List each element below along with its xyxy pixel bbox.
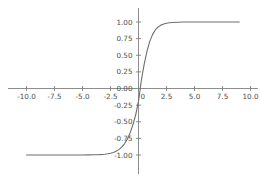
x-tick-label: 0	[141, 92, 146, 101]
x-tick-label: -7.5	[47, 92, 61, 101]
x-tick-label: 2.5	[161, 92, 172, 101]
y-axis: 1.000.750.500.250.00-0.25-0.50-0.75-1.00	[114, 8, 141, 174]
y-tick-label: 0.25	[116, 67, 132, 76]
chart-figure: -10.0-7.5-5.0-2.502.55.07.510.0 1.000.75…	[0, 0, 260, 176]
x-tick-label: -2.5	[103, 92, 117, 101]
y-tick-label: 1.00	[116, 18, 132, 27]
x-axis: -10.0-7.5-5.0-2.502.55.07.510.0	[8, 86, 259, 101]
y-tick-label: 0.00	[116, 84, 132, 93]
y-tick-label: 0.75	[116, 34, 132, 43]
x-tick-label: 10.0	[242, 92, 258, 101]
plot-canvas: -10.0-7.5-5.0-2.502.55.07.510.0 1.000.75…	[0, 0, 260, 176]
y-tick-label: -0.50	[114, 117, 133, 126]
x-tick-label: 5.0	[189, 92, 201, 101]
x-tick-label: -10.0	[17, 92, 36, 101]
y-tick-label: -0.75	[114, 134, 133, 143]
y-tick-label: 0.50	[116, 51, 132, 60]
y-tick-label: -0.25	[114, 101, 133, 110]
x-tick-label: 7.5	[217, 92, 228, 101]
x-tick-label: -5.0	[75, 92, 89, 101]
y-axis-tick-labels: 1.000.750.500.250.00-0.25-0.50-0.75-1.00	[114, 18, 133, 160]
y-tick-label: -1.00	[114, 151, 133, 160]
